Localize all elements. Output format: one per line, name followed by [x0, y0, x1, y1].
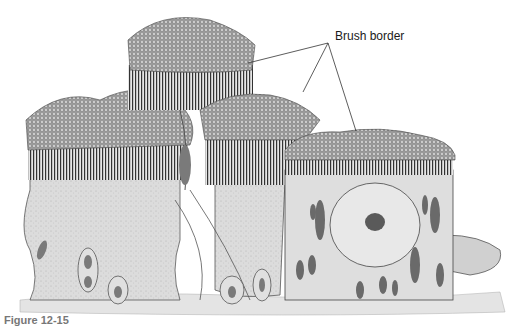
- brush-border-illustration: [0, 0, 509, 327]
- epithelial-cell-cross-section: [285, 129, 501, 300]
- epithelial-cell-left: [24, 90, 193, 304]
- figure-caption: Figure 12-15: [4, 314, 69, 326]
- brush-border-label: Brush border: [335, 29, 404, 43]
